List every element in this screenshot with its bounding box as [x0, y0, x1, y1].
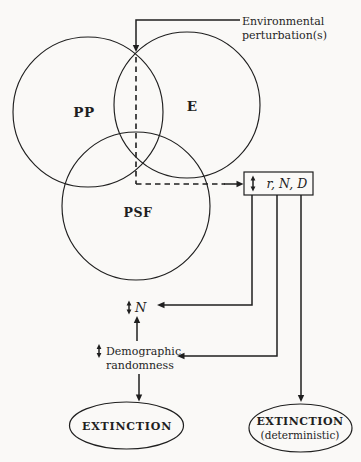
up-down-arrow-icon: [127, 301, 132, 315]
arrowhead-up-icon: [134, 316, 140, 323]
psf-label: PSF: [124, 205, 153, 220]
arrowhead-down-icon: [136, 395, 142, 402]
n-node: N: [127, 300, 147, 315]
deterministic-extinction-ellipse: EXTINCTION (deterministic): [249, 404, 352, 452]
rnd-box: r, N, D: [244, 172, 313, 195]
arrowhead-down-icon: [298, 395, 304, 402]
deterministic-extinction-label-line2: (deterministic): [261, 429, 340, 441]
extinction-ellipse: EXTINCTION: [70, 402, 184, 449]
up-down-arrow-icon: [97, 344, 102, 358]
pp-label: PP: [73, 104, 94, 120]
environmental-arrow: [133, 20, 240, 52]
demographic-randomness-node: Demographic randomness: [97, 344, 181, 372]
extinction-risk-diagram: PP E PSF Environmental perturbation(s) r…: [0, 0, 361, 462]
demographic-label-line1: Demographic: [106, 345, 181, 358]
arrowhead-right-icon: [237, 181, 244, 187]
rnd-box-label: r, N, D: [267, 176, 308, 191]
environmental-label-line1: Environmental: [242, 15, 325, 28]
e-label: E: [187, 98, 197, 114]
arrow-to-n: [157, 195, 252, 308]
arrow-demographic-to-n: [134, 316, 140, 341]
arrowhead-left-icon: [157, 302, 165, 308]
environmental-label-line2: perturbation(s): [242, 29, 327, 42]
arrow-to-deterministic-extinction: [298, 195, 304, 402]
demographic-label-line2: randomness: [106, 359, 174, 372]
extinction-label: EXTINCTION: [82, 420, 172, 433]
deterministic-extinction-label-line1: EXTINCTION: [256, 415, 343, 428]
arrow-randomness-to-extinction: [136, 374, 142, 402]
perturbation-dashed-path: [136, 57, 244, 187]
arrow-to-demographic-randomness: [177, 195, 277, 359]
n-label: N: [134, 300, 147, 315]
